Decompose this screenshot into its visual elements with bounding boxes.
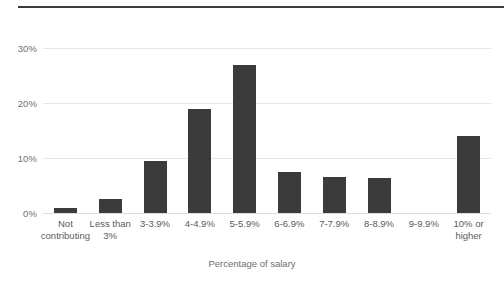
- bar[interactable]: [99, 199, 122, 213]
- x-axis-title: Percentage of salary: [0, 258, 504, 269]
- bar[interactable]: [54, 208, 77, 213]
- bar-slot: [457, 40, 480, 213]
- bar-slot: [278, 40, 301, 213]
- chart-figure: 30%20%10%0% Not contributingLess than 3%…: [0, 0, 504, 290]
- y-axis-tick-label: 30%: [18, 43, 37, 54]
- bar-slot: [54, 40, 77, 213]
- bar[interactable]: [323, 177, 346, 213]
- bars-group: [43, 40, 491, 213]
- bar-slot: [412, 40, 435, 213]
- bar[interactable]: [278, 172, 301, 213]
- gridline-0: 0%: [43, 213, 491, 214]
- bar-slot: [188, 40, 211, 213]
- bar-slot: [144, 40, 167, 213]
- bar-slot: [233, 40, 256, 213]
- header-divider: [18, 6, 504, 8]
- plot-area: 30%20%10%0% Not contributingLess than 3%…: [43, 40, 491, 213]
- bar[interactable]: [368, 178, 391, 213]
- bar-slot: [368, 40, 391, 213]
- bar[interactable]: [457, 136, 480, 213]
- y-axis-tick-label: 0%: [23, 208, 37, 219]
- y-axis-tick-label: 10%: [18, 153, 37, 164]
- bar-slot: [323, 40, 346, 213]
- y-axis-tick-label: 20%: [18, 98, 37, 109]
- bar[interactable]: [188, 109, 211, 213]
- bar-slot: [99, 40, 122, 213]
- bar[interactable]: [144, 161, 167, 213]
- bar[interactable]: [233, 65, 256, 213]
- x-axis-tick-label: 10% or higher: [442, 218, 495, 241]
